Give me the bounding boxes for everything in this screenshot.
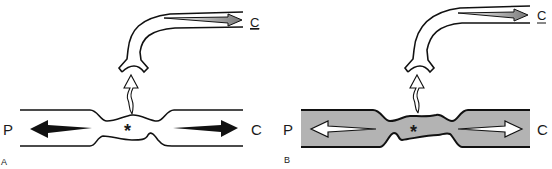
right-label: C bbox=[251, 121, 262, 138]
center-marker: * bbox=[410, 122, 417, 142]
upward-wavy-arrow bbox=[124, 75, 138, 114]
right-label: C bbox=[537, 121, 548, 138]
right-flow-arrow bbox=[173, 120, 238, 137]
tube-label: C bbox=[250, 15, 259, 30]
panel-label: A bbox=[1, 157, 7, 167]
panel-label: B bbox=[284, 155, 290, 165]
panel-a: * P C C A bbox=[1, 12, 262, 167]
panel-b: * P C C B bbox=[283, 6, 548, 165]
diagram-canvas: * P C C A * P C C B bbox=[0, 0, 552, 169]
left-label: P bbox=[3, 121, 13, 138]
center-marker: * bbox=[124, 121, 131, 141]
vessel-bottom-wall bbox=[20, 133, 243, 146]
left-flow-arrow bbox=[30, 120, 92, 138]
left-label: P bbox=[283, 121, 293, 138]
upward-wavy-arrow bbox=[410, 75, 424, 113]
tube-label: C bbox=[537, 8, 546, 23]
